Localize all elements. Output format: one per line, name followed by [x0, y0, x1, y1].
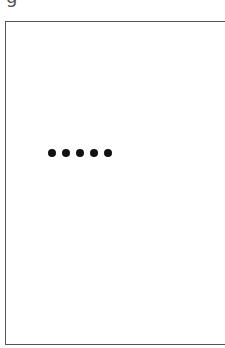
- password-panel[interactable]: [5, 21, 216, 345]
- masked-password-dots: [48, 149, 112, 157]
- mask-dot-icon: [62, 149, 70, 157]
- mask-dot-icon: [48, 149, 56, 157]
- mask-dot-icon: [76, 149, 84, 157]
- partial-label-text: g: [6, 0, 17, 6]
- mask-dot-icon: [90, 149, 98, 157]
- mask-dot-icon: [104, 149, 112, 157]
